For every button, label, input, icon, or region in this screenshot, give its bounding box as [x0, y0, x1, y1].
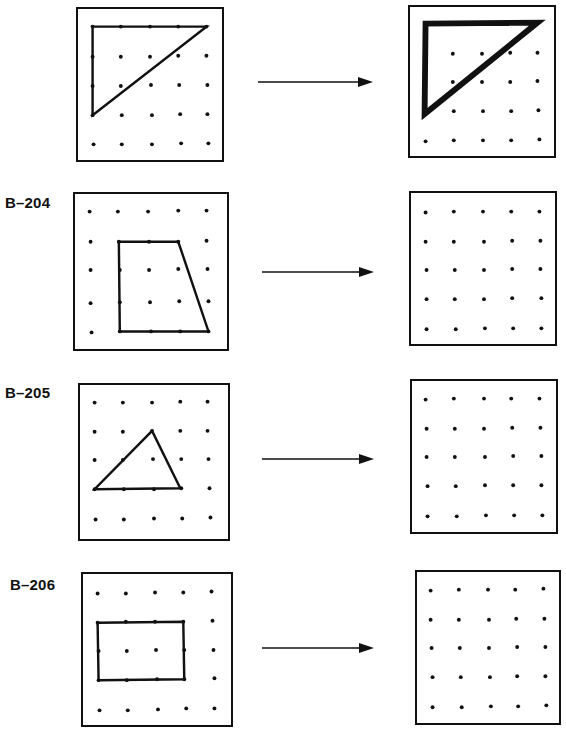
trapezoid-shape	[119, 242, 209, 332]
arrow-right-icon	[262, 451, 374, 463]
geoboard-pegs	[417, 572, 559, 723]
geoboard-pegs	[75, 194, 227, 349]
geoboard-pegs	[410, 7, 554, 156]
geoboard-right-1	[408, 5, 556, 158]
geoboard-pegs	[78, 9, 222, 160]
geoboard-left-4	[81, 572, 233, 727]
geoboard-right-2	[409, 191, 557, 346]
problem-label: B–206	[10, 576, 55, 593]
geoboard-pegs	[80, 385, 228, 539]
geoboard-pegs	[83, 574, 231, 725]
triangle-shape	[95, 431, 181, 489]
geoboard-left-1	[76, 7, 224, 162]
geoboard-right-3	[410, 379, 558, 534]
geoboard-pegs	[411, 193, 555, 344]
geoboard-pegs	[412, 381, 556, 532]
geoboard-right-4	[415, 570, 561, 725]
arrow-right-icon	[262, 264, 374, 276]
rectangle-shape	[98, 622, 185, 680]
geoboard-left-3	[78, 383, 230, 541]
problem-label: B–205	[5, 384, 50, 401]
triangle-bold-shape	[425, 23, 538, 114]
problem-label: B–204	[5, 194, 50, 211]
geoboard-left-2	[73, 192, 229, 351]
triangle-shape	[93, 27, 207, 116]
arrow-right-icon	[258, 74, 373, 86]
arrow-right-icon	[262, 640, 374, 652]
